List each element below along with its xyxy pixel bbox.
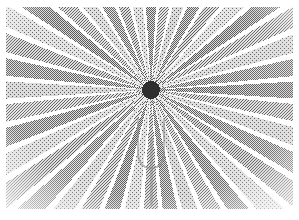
page-vignette (0, 0, 299, 220)
radial-sunburst-artwork (0, 0, 299, 220)
bottom-margin-mask (0, 209, 299, 220)
right-margin-mask (293, 0, 299, 220)
top-margin-mask (0, 0, 299, 7)
sunburst-svg (0, 0, 299, 220)
image-canvas: Radial sunburst halftone pattern Scanned… (0, 0, 299, 220)
left-margin-mask (0, 0, 6, 220)
